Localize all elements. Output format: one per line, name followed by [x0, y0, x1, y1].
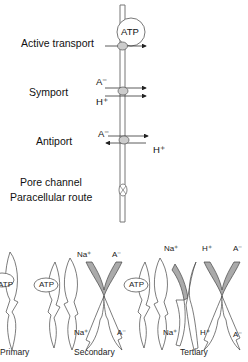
- tertiary-na-top: Na⁺: [164, 244, 178, 253]
- label-active-transport: Active transport: [21, 37, 94, 49]
- antiport-carrier: [106, 136, 148, 144]
- label-paracellular-route: Paracellular route: [10, 191, 92, 203]
- secondary-na-bottom: Na⁺: [74, 328, 88, 337]
- tertiary-h-bottom: H⁺: [200, 328, 210, 337]
- tertiary-na-bottom: Na⁺: [163, 328, 177, 337]
- tertiary-h-top: H⁺: [202, 244, 212, 253]
- primary-transporter: [0, 252, 18, 350]
- tertiary-a-bottom: A⁻: [233, 330, 242, 339]
- symport-carrier: [105, 87, 146, 96]
- label-pore-channel: Pore channel: [20, 176, 82, 188]
- active-transport-atp-label: ATP: [121, 26, 139, 37]
- secondary-na-top: Na⁺: [77, 250, 91, 259]
- caption-primary: Primary: [0, 347, 29, 357]
- label-antiport: Antiport: [36, 135, 72, 147]
- antiport-ion-right: H⁺: [153, 144, 165, 155]
- caption-tertiary: Tertiary: [180, 347, 208, 357]
- antiport-ion-left: A⁻: [98, 128, 109, 139]
- pore-channel: [119, 184, 127, 196]
- secondary-atp-label: ATP: [39, 280, 54, 289]
- label-symport: Symport: [29, 86, 68, 98]
- tertiary-transporter: [124, 258, 240, 350]
- secondary-a-bottom: A⁻: [117, 328, 126, 337]
- caption-secondary: Secondary: [74, 347, 115, 357]
- tertiary-atp-label: ATP: [129, 280, 144, 289]
- tertiary-a-top: A⁻: [233, 244, 242, 253]
- primary-atp-label: ATP: [0, 280, 13, 289]
- symport-ion-top: A⁻: [96, 76, 107, 87]
- symport-ion-bottom: H⁺: [96, 96, 108, 107]
- secondary-a-top: A⁻: [112, 250, 121, 259]
